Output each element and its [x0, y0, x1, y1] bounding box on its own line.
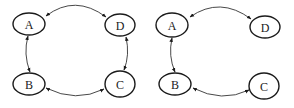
node-d: D — [250, 16, 280, 38]
node-a: A — [156, 13, 188, 37]
node-b: B — [159, 73, 191, 95]
node-label: A — [168, 19, 177, 33]
node-label: C — [116, 78, 124, 92]
left-graph: A D B C — [13, 5, 135, 97]
node-label: B — [25, 78, 33, 92]
edge-a-d — [46, 5, 106, 17]
node-label: C — [260, 80, 268, 94]
node-label: B — [171, 78, 179, 92]
node-b: B — [13, 73, 45, 95]
right-graph: A D B C — [156, 7, 280, 99]
node-a: A — [13, 13, 45, 35]
node-d: D — [105, 14, 135, 36]
diagram-canvas: A D B C A D B — [0, 0, 294, 108]
node-c: C — [249, 73, 279, 99]
node-label: D — [116, 19, 125, 33]
edge-b-c — [46, 88, 104, 96]
node-label: D — [261, 21, 270, 35]
node-c: C — [105, 71, 135, 97]
edge-a-b — [26, 36, 30, 72]
edge-a-d — [190, 7, 251, 19]
edge-b-c — [193, 88, 249, 96]
node-label: A — [25, 18, 34, 32]
edge-d-c — [124, 37, 128, 70]
edge-a-b — [171, 38, 175, 72]
